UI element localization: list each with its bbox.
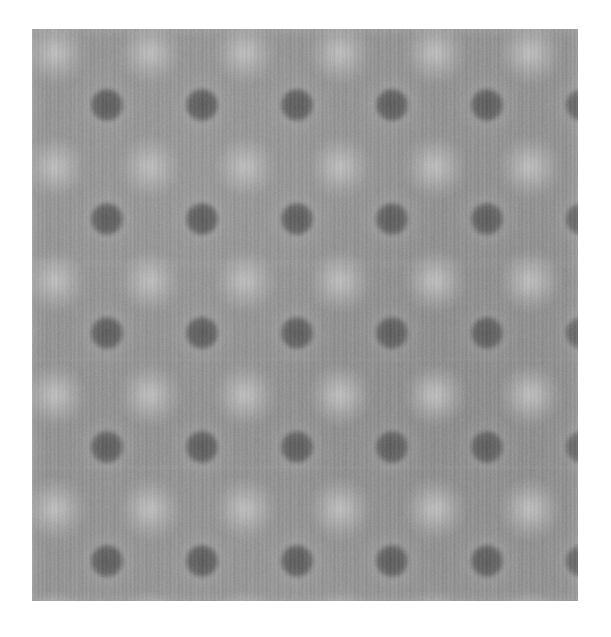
micrograph-render-stack: [32, 29, 578, 601]
image-viewport: [0, 0, 611, 637]
micrograph-panel: [32, 29, 578, 601]
dark-site-sublattice-layer: [32, 29, 578, 601]
